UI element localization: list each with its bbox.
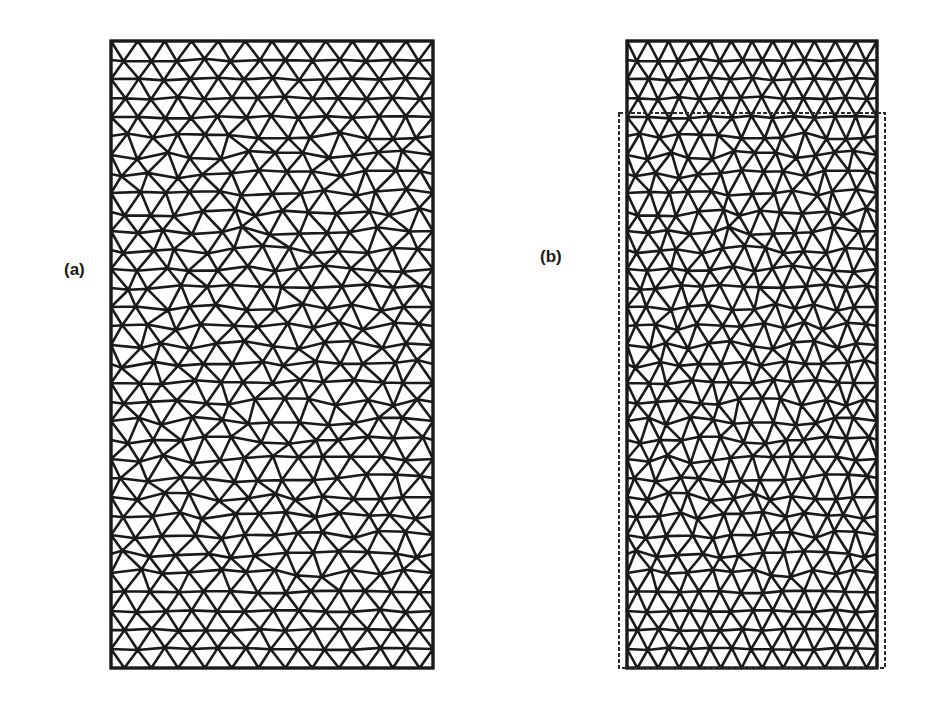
finite-element-mesh-b [627, 41, 877, 668]
mesh-edges [111, 41, 433, 668]
mesh-edges [627, 41, 877, 668]
finite-element-mesh-a [111, 41, 433, 668]
figure-canvas [0, 0, 929, 712]
